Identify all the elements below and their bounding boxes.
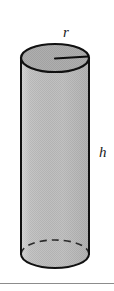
figure-canvas: r h (0, 0, 114, 291)
cylinder-diagram (0, 0, 114, 291)
radius-label: r (63, 25, 69, 40)
cylinder-body (21, 58, 89, 268)
page-divider-rule (0, 283, 114, 284)
height-label: h (99, 145, 107, 160)
